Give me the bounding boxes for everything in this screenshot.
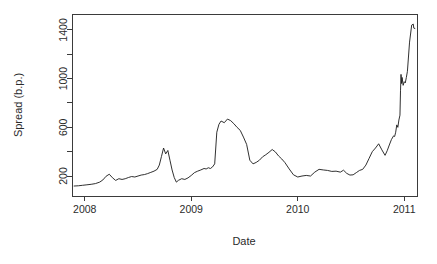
axis-ticks	[67, 30, 404, 201]
series-line-spread	[74, 24, 415, 186]
y-tick-label: 1400	[57, 18, 69, 42]
data-series	[74, 24, 415, 186]
y-axis-title: Spread (b.p.)	[12, 73, 24, 137]
spread-line-chart: 200600100014002008200920102011 Spread (b…	[0, 0, 437, 264]
chart-figure: 200600100014002008200920102011 Spread (b…	[0, 0, 437, 264]
y-tick-label: 200	[57, 167, 69, 185]
plot-border	[72, 14, 417, 196]
y-tick-label: 1000	[57, 67, 69, 91]
axis-tick-labels: 200600100014002008200920102011	[57, 18, 416, 215]
y-tick-label: 600	[57, 118, 69, 136]
x-tick-label: 2010	[286, 203, 310, 215]
x-tick-label: 2009	[180, 203, 204, 215]
x-tick-label: 2008	[73, 203, 97, 215]
plot-axes	[72, 14, 417, 196]
x-tick-label: 2011	[393, 203, 416, 215]
x-axis-title: Date	[232, 235, 255, 247]
